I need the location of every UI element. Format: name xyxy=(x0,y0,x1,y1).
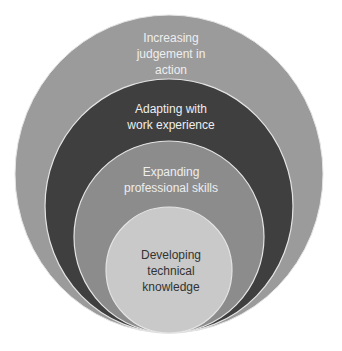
label-expanding-skills: Expanding professional skills xyxy=(0,164,342,196)
label-increasing-judgement: Increasing judgement in action xyxy=(0,30,342,78)
label-adapting-experience: Adapting with work experience xyxy=(0,101,342,133)
label-developing-knowledge: Developing technical knowledge xyxy=(0,247,342,295)
